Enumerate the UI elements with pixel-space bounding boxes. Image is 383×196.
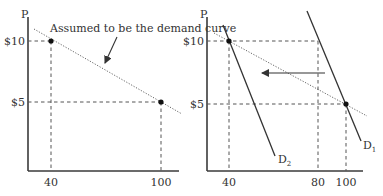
annotation-arrow-icon — [105, 37, 117, 63]
left-y-tick-5: $5 — [11, 96, 25, 109]
left-point-100-5 — [158, 99, 163, 104]
right-panel: P $10 $5 40 80 100 D1 D2 — [183, 8, 376, 189]
left-y-tick-10: $10 — [4, 35, 25, 48]
right-point-40-10 — [226, 38, 231, 43]
left-annotation: Assumed to be the demand curve — [49, 22, 236, 35]
left-x-tick-100: 100 — [151, 176, 172, 189]
right-y-tick-5: $5 — [190, 98, 204, 111]
right-y-tick-10: $10 — [183, 35, 204, 48]
demand-curve-d1 — [307, 11, 361, 141]
d2-label: D2 — [278, 153, 291, 168]
right-point-100-5 — [343, 101, 348, 106]
d1-label: D1 — [363, 139, 376, 154]
right-x-tick-100: 100 — [336, 176, 357, 189]
right-x-tick-80: 80 — [311, 176, 325, 189]
demand-diagram: P $10 $5 40 100 Assumed to be the demand… — [0, 0, 383, 196]
left-x-tick-40: 40 — [44, 176, 58, 189]
demand-curve-d2 — [223, 25, 275, 156]
right-x-tick-40: 40 — [222, 176, 236, 189]
left-point-40-10 — [48, 38, 53, 43]
